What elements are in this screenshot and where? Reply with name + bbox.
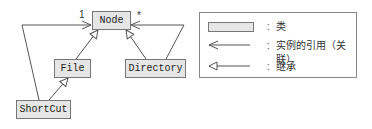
class-swatch [208, 22, 254, 32]
shortcut-file-inheritance [49, 78, 68, 100]
class-node: Node [92, 11, 131, 30]
class-directory-name: Directory [128, 63, 182, 74]
multiplicity-many: * [137, 10, 141, 21]
class-file-name: File [60, 63, 84, 74]
class-file: File [54, 59, 91, 78]
class-shortcut: ShortCut [16, 100, 71, 119]
legend-separator: ： [266, 20, 275, 34]
directory-node-association [131, 25, 184, 59]
class-shortcut-name: ShortCut [19, 104, 67, 115]
class-directory: Directory [125, 59, 186, 78]
legend-class-label: 类 [276, 20, 286, 34]
file-node-inheritance [76, 30, 98, 59]
legend-row-class [208, 20, 254, 34]
multiplicity-one: 1 [79, 9, 85, 20]
legend-separator: ： [266, 39, 275, 53]
legend-separator: ： [266, 60, 275, 74]
legend: ： 类 ： 实例的引用（关联） ： 继承 [199, 12, 357, 78]
legend-inheritance-label: 继承 [276, 60, 296, 74]
class-node-name: Node [99, 15, 123, 26]
directory-node-inheritance [126, 30, 146, 59]
